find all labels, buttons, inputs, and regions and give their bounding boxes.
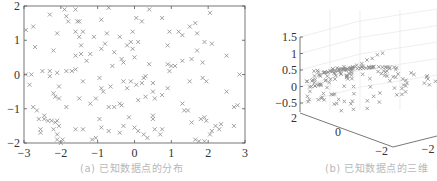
z-tick-label: −0.5 xyxy=(275,96,297,110)
data-point-marker xyxy=(395,93,398,96)
data-point-marker xyxy=(306,95,309,98)
data-point-marker xyxy=(325,86,328,89)
z-tick-label: 1.5 xyxy=(282,30,297,44)
data-point-marker xyxy=(312,69,315,72)
data-point-marker xyxy=(361,73,364,76)
data-point-marker xyxy=(313,84,316,87)
data-point-marker xyxy=(308,90,311,93)
data-point-marker xyxy=(335,102,338,105)
data-point-marker xyxy=(355,64,358,67)
data-point-marker xyxy=(333,77,336,80)
data-point-marker xyxy=(382,69,385,72)
data-point-marker xyxy=(366,99,369,102)
data-point-marker xyxy=(377,65,380,68)
scatter-plot-3d: −0.500.511.520−2−2 xyxy=(0,0,437,181)
z-tick-label: 1 xyxy=(291,47,297,61)
z-tick-label: 0 xyxy=(291,80,297,94)
data-point-marker xyxy=(383,74,386,77)
data-point-marker xyxy=(343,100,346,103)
x-tick-label: −2 xyxy=(422,142,435,156)
data-point-marker xyxy=(371,57,374,60)
y-axis-line xyxy=(300,113,393,147)
data-point-marker xyxy=(381,52,384,55)
data-point-marker xyxy=(393,86,396,89)
data-point-marker xyxy=(340,109,343,112)
data-point-marker xyxy=(322,92,325,95)
caption-panel-b: (b) 已知数据点的三维 xyxy=(325,160,428,175)
data-point-marker xyxy=(365,58,368,61)
data-point-marker xyxy=(404,90,407,93)
data-point-marker xyxy=(365,107,368,110)
caption-panel-a: (a) 已知数据点的分布 xyxy=(80,160,183,175)
y-tick-label: 2 xyxy=(291,111,297,125)
data-point-marker xyxy=(352,92,355,95)
data-point-marker xyxy=(327,81,330,84)
data-point-marker xyxy=(305,80,308,83)
data-point-marker xyxy=(400,93,403,96)
data-point-marker xyxy=(352,108,355,111)
data-point-marker xyxy=(391,75,394,78)
data-point-marker xyxy=(400,87,403,90)
data-point-marker xyxy=(333,102,336,105)
data-point-marker xyxy=(376,53,379,56)
figure: −3−2−10123−2−1012 −0.500.511.520−2−2 (a)… xyxy=(0,0,437,181)
data-point-marker xyxy=(350,77,353,80)
y-tick-label: 0 xyxy=(335,125,341,139)
data-point-marker xyxy=(388,79,391,82)
data-point-marker xyxy=(326,74,329,77)
data-point-marker xyxy=(313,74,316,77)
data-point-marker xyxy=(342,84,345,87)
data-point-marker xyxy=(372,95,375,98)
z-tick-label: 0.5 xyxy=(282,63,297,77)
data-point-marker xyxy=(423,81,426,84)
data-point-marker xyxy=(396,72,399,75)
data-point-marker xyxy=(378,100,381,103)
axes-3d: −0.500.511.520−2−2 xyxy=(275,9,437,158)
data-point-marker xyxy=(376,70,379,73)
data-point-marker xyxy=(378,91,381,94)
data-point-marker xyxy=(428,83,431,86)
data-point-marker xyxy=(426,77,429,80)
data-point-marker xyxy=(337,98,340,101)
y-tick-label: −2 xyxy=(375,144,388,158)
data-point-marker xyxy=(352,85,355,88)
data-point-marker xyxy=(368,77,371,80)
